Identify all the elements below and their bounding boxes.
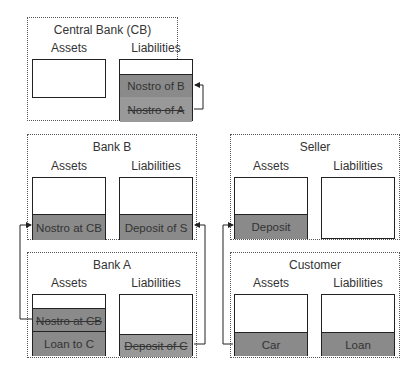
transfer-arrows [0, 0, 419, 376]
car-deposit-arrow [223, 225, 233, 344]
interbank-nostro-transfer-arrow [20, 225, 32, 319]
cb-nostro-transfer-arrow [194, 85, 203, 109]
deposit-transfer-arrow [194, 225, 205, 344]
